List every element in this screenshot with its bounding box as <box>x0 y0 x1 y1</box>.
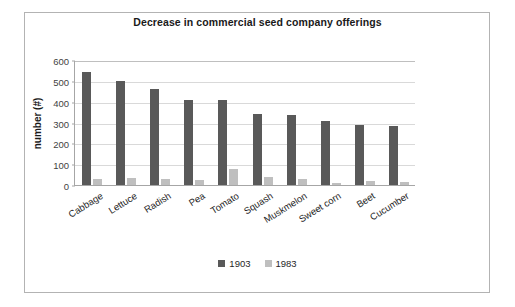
chart-title: Decrease in commercial seed company offe… <box>0 16 515 28</box>
chart-legend: 19031983 <box>0 258 515 269</box>
bar-1903[interactable] <box>321 121 330 185</box>
plot-inner: 6005004003002001000 <box>74 61 415 186</box>
bar-1903[interactable] <box>82 72 91 185</box>
bar-1903[interactable] <box>116 81 125 185</box>
bar-1983[interactable] <box>298 179 307 185</box>
bar-1983[interactable] <box>195 180 204 185</box>
plot-area: 6005004003002001000 <box>74 61 415 186</box>
bar-group[interactable] <box>143 61 177 185</box>
x-axis-tick-label: Radish <box>142 190 173 215</box>
bar-group[interactable] <box>314 61 348 185</box>
bar-1903[interactable] <box>389 126 398 185</box>
legend-label: 1983 <box>276 258 297 269</box>
bar-1983[interactable] <box>93 179 102 185</box>
x-axis-tick-label: Beet <box>355 190 377 210</box>
bar-1903[interactable] <box>253 114 262 185</box>
bar-1983[interactable] <box>229 169 238 185</box>
x-axis-labels: CabbageLettuceRadishPeaTomatoSquashMuskm… <box>74 186 415 256</box>
bar-group[interactable] <box>348 61 382 185</box>
legend-swatch-icon <box>265 260 272 267</box>
bar-1903[interactable] <box>150 89 159 185</box>
bar-group[interactable] <box>75 61 109 185</box>
x-axis-tick-label: Lettuce <box>106 190 138 216</box>
bar-group[interactable] <box>280 61 314 185</box>
bar-group[interactable] <box>382 61 416 185</box>
y-axis-title: number (#) <box>30 61 46 186</box>
bar-1983[interactable] <box>161 179 170 185</box>
x-axis-tick-label: Pea <box>187 190 207 208</box>
bar-group[interactable] <box>177 61 211 185</box>
x-axis-tick-label: Tomato <box>209 190 241 216</box>
bar-1983[interactable] <box>400 182 409 185</box>
bar-group[interactable] <box>211 61 245 185</box>
bar-1983[interactable] <box>264 177 273 185</box>
legend-item[interactable]: 1983 <box>265 258 297 269</box>
bar-1983[interactable] <box>366 181 375 185</box>
bar-1983[interactable] <box>332 183 341 186</box>
bar-group[interactable] <box>246 61 280 185</box>
legend-item[interactable]: 1903 <box>218 258 250 269</box>
bar-1983[interactable] <box>127 178 136 186</box>
bar-1903[interactable] <box>184 100 193 185</box>
bar-1903[interactable] <box>355 125 364 185</box>
y-axis-title-text: number (#) <box>33 98 44 150</box>
bar-1903[interactable] <box>218 100 227 185</box>
legend-swatch-icon <box>218 260 225 267</box>
bar-group[interactable] <box>109 61 143 185</box>
legend-label: 1903 <box>229 258 250 269</box>
bar-1903[interactable] <box>287 115 296 185</box>
